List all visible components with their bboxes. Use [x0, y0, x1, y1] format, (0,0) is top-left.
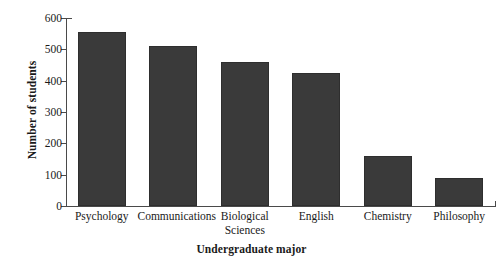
y-tick-label: 0 [56, 198, 62, 214]
bar [221, 62, 269, 206]
plot-area: 0100200300400500600 [66, 18, 495, 206]
y-tick-label: 500 [45, 41, 62, 57]
x-axis-title: Undergraduate major [0, 243, 503, 255]
x-axis-right-cap [495, 201, 496, 207]
y-tick-label: 600 [45, 10, 62, 26]
bar [78, 32, 126, 206]
bar-chart: Number of students 0100200300400500600 P… [0, 0, 503, 264]
y-axis-title: Number of students [26, 25, 38, 195]
x-category-label: Biological Sciences [209, 210, 281, 237]
y-tick-label: 200 [45, 135, 62, 151]
y-tick-label: 300 [45, 104, 62, 120]
x-category-label: English [281, 210, 353, 224]
x-category-label: Psychology [66, 210, 138, 224]
bar [292, 73, 340, 206]
x-category-label: Philosophy [424, 210, 496, 224]
y-tick-label: 400 [45, 73, 62, 89]
bar [149, 46, 197, 206]
x-category-label: Chemistry [352, 210, 424, 224]
y-tick-label: 100 [45, 167, 62, 183]
x-axis-line [66, 206, 496, 207]
y-axis-top-cap [66, 18, 72, 19]
bar [364, 156, 412, 206]
x-category-label: Communications [138, 210, 210, 224]
y-axis-line [66, 18, 67, 207]
bar [435, 178, 483, 206]
